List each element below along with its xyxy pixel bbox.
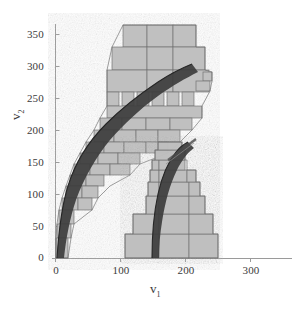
cell-block bbox=[150, 170, 159, 182]
x-tick-label-100: 100 bbox=[105, 264, 137, 276]
y-axis-label-subscript: 2 bbox=[17, 110, 26, 114]
cell-block bbox=[189, 182, 200, 196]
cell-block bbox=[112, 47, 147, 70]
cell-block bbox=[189, 214, 213, 234]
cell-block bbox=[203, 72, 212, 81]
cell-block bbox=[196, 81, 210, 91]
cell-block bbox=[147, 47, 173, 70]
cell-block bbox=[124, 142, 146, 153]
cell-block bbox=[107, 92, 119, 106]
cell-block bbox=[182, 92, 194, 106]
cell-block bbox=[86, 175, 104, 186]
y-tick-label-50: 50 bbox=[6, 220, 44, 232]
cell-block bbox=[170, 118, 192, 130]
cell-block bbox=[146, 118, 170, 130]
x-axis-ticks bbox=[56, 259, 251, 263]
cell-block bbox=[189, 196, 205, 214]
cell-block bbox=[159, 214, 189, 234]
y-tick-label-200: 200 bbox=[6, 124, 44, 136]
cell-block bbox=[158, 130, 180, 142]
cell-block bbox=[123, 25, 147, 47]
cell-block bbox=[187, 170, 196, 182]
chart-figure: 350 300 250 200 150 100 50 0 0 100 200 3… bbox=[0, 0, 308, 310]
cell-block bbox=[118, 153, 140, 164]
y-tick-label-150: 150 bbox=[6, 156, 44, 168]
y-tick-label-250: 250 bbox=[6, 92, 44, 104]
y-tick-label-0: 0 bbox=[6, 251, 44, 263]
cell-block bbox=[107, 70, 147, 92]
cell-block bbox=[173, 25, 196, 47]
cell-block bbox=[189, 234, 218, 258]
cell-block bbox=[152, 160, 159, 170]
y-axis-label-base: v bbox=[8, 114, 23, 121]
y-tick-label-100: 100 bbox=[6, 188, 44, 200]
cell-block bbox=[82, 186, 98, 198]
x-tick-label-0: 0 bbox=[46, 264, 66, 276]
x-tick-label-300: 300 bbox=[235, 264, 267, 276]
x-tick-label-200: 200 bbox=[170, 264, 202, 276]
y-tick-label-300: 300 bbox=[6, 60, 44, 72]
cell-block bbox=[148, 182, 159, 196]
cell-block bbox=[167, 92, 179, 106]
cell-block bbox=[147, 25, 173, 47]
cell-block bbox=[98, 153, 118, 164]
cell-block bbox=[136, 130, 158, 142]
cell-block bbox=[90, 164, 110, 175]
y-axis-label: v2 bbox=[8, 110, 26, 121]
cell-block bbox=[159, 234, 189, 258]
x-axis-label-subscript: 1 bbox=[157, 290, 161, 299]
cell-block bbox=[110, 164, 130, 175]
cell-block bbox=[78, 198, 92, 210]
y-tick-label-350: 350 bbox=[6, 28, 44, 40]
x-axis-label: v1 bbox=[150, 281, 161, 299]
